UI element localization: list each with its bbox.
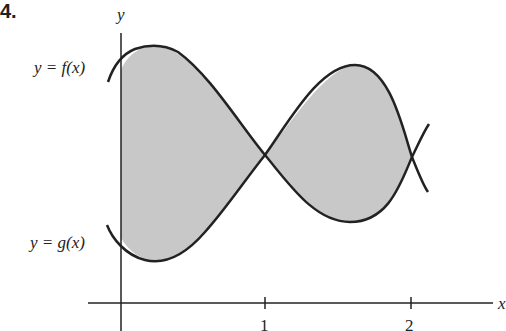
graph (0, 0, 503, 331)
